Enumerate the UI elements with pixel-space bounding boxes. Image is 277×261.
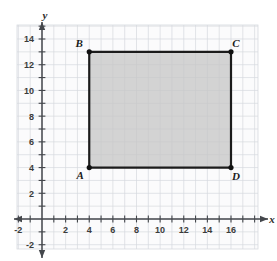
x-tick-label: 8 (134, 225, 139, 235)
coordinate-plane-figure: -22468101214161412108642-2xyABCD (0, 0, 277, 261)
y-tick-label: 12 (24, 60, 34, 70)
y-tick-label: 14 (24, 34, 34, 44)
vertex-label-c: C (232, 37, 240, 49)
y-tick-label: 6 (29, 137, 34, 147)
coordinate-grid-svg: -22468101214161412108642-2xyABCD (0, 0, 277, 261)
x-tick-label: 6 (110, 225, 115, 235)
x-tick-label: -2 (14, 225, 22, 235)
x-axis-label: x (268, 213, 275, 225)
y-tick-label: 10 (24, 86, 34, 96)
x-tick-label: 16 (226, 225, 236, 235)
x-tick-label: 12 (179, 225, 189, 235)
rectangle-ABCD-fill (89, 52, 231, 168)
x-tick-label: 14 (202, 225, 212, 235)
x-tick-label: 2 (63, 225, 68, 235)
y-axis-label: y (41, 9, 48, 21)
vertex-label-a: A (76, 169, 84, 181)
y-tick-label: 2 (29, 189, 34, 199)
y-tick-label: -2 (26, 240, 34, 250)
vertex-label-d: D (231, 170, 240, 182)
vertex-point-c (228, 49, 233, 54)
vertex-label-b: B (75, 37, 83, 49)
vertex-point-b (87, 49, 92, 54)
y-tick-label: 8 (29, 112, 34, 122)
y-tick-label: 4 (29, 163, 34, 173)
x-tick-label: 4 (87, 225, 92, 235)
x-tick-label: 10 (155, 225, 165, 235)
vertex-point-a (87, 165, 92, 170)
